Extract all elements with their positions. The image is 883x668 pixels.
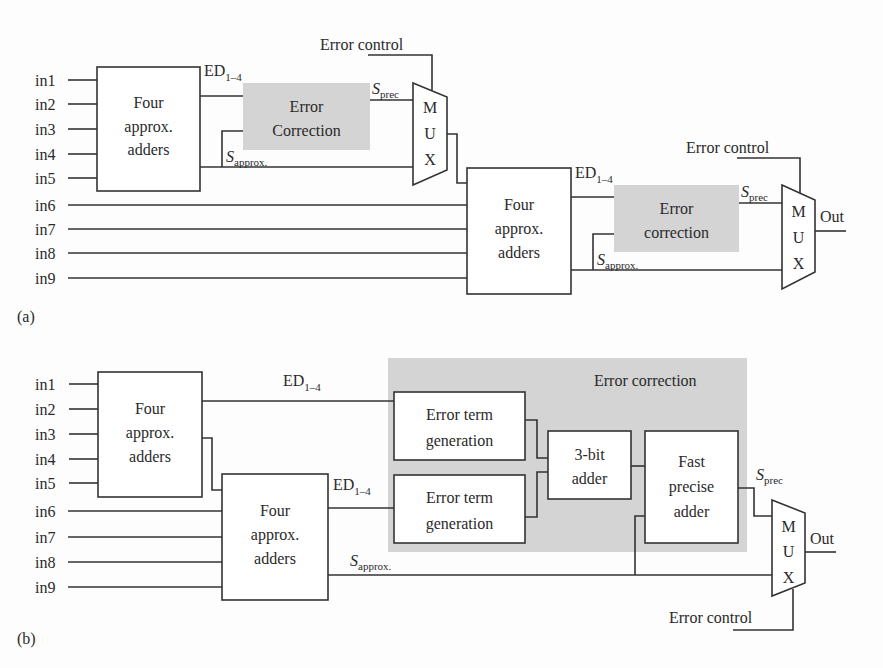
block-label-line1: Error term [426,406,494,423]
input-label-in2: in2 [35,96,55,113]
diagram-a-error-correction-1: Error Correction [243,83,370,150]
s-approx-label: Sapprox. [226,148,268,168]
mux-letter-x: X [424,151,436,168]
block-label-line3: adder [674,503,710,520]
input-label-in1: in1 [35,376,55,393]
mux-letter-u: U [783,543,795,560]
fast-precise-adder: Fast precise adder [645,431,738,543]
adder-label-line3: adders [254,550,296,567]
adder-label-line2: approx. [126,424,174,442]
ed-label: ED1–4 [333,476,371,497]
ed-label: ED1–4 [283,372,321,393]
s-approx-label: Sapprox. [597,251,639,271]
input-label-in7: in7 [35,221,55,238]
input-label-in8: in8 [35,245,55,262]
adder-label-line1: Four [504,196,535,213]
input-label-in5: in5 [35,475,55,492]
error-correction-title: Error correction [594,372,697,389]
mux-letter-m: M [781,518,795,535]
adder-label-line3: adders [498,244,540,261]
input-label-in9: in9 [35,579,55,596]
diagram-a: in1 in2 in3 in4 in5 in6 in7 in8 in9 Four [17,36,846,326]
mux-letter-u: U [424,125,436,142]
block-label-line1: Error term [426,489,494,506]
error-control-label: Error control [686,139,770,156]
s-prec-label: Sprec [741,183,768,203]
ed-label: ED1–4 [575,164,613,185]
adder-label-line2: approx. [124,118,172,136]
mux-letter-m: M [791,203,805,220]
error-correction-label-line1: Error [660,200,694,217]
adder-label-line1: Four [133,94,164,111]
diagram-b-approx-adder-2: Four approx. adders [222,474,328,600]
adder-label-line2: approx. [251,526,299,544]
adder-label-line1: Four [135,400,166,417]
mux-letter-x: X [783,569,795,586]
input-label-in8: in8 [35,554,55,571]
s-prec-label: Sprec [372,80,399,100]
input-label-in3: in3 [35,121,55,138]
adder-label-line3: adders [128,141,170,158]
input-label-in6: in6 [35,503,55,520]
error-correction-label-line1: Error [290,98,324,115]
output-label: Out [820,208,845,225]
input-label-in9: in9 [35,270,55,287]
block-label-line2: adder [572,470,608,487]
diagram-b-mux: M U X [772,500,805,596]
block-label-line1: Fast [678,453,705,470]
ed-label: ED1–4 [204,62,242,83]
input-label-in5: in5 [35,170,55,187]
error-control-label: Error control [669,609,753,626]
error-control-label: Error control [320,36,404,53]
diagram-b: Error correction in1 in2 in3 in4 in5 in6… [17,358,836,648]
adder-label-line2: approx. [495,220,543,238]
subfigure-label-b: (b) [17,630,36,648]
diagram-canvas: in1 in2 in3 in4 in5 in6 in7 in8 in9 Four [0,0,883,668]
error-term-generation-2: Error term generation [394,475,525,543]
s-prec-label: Sprec [756,466,783,486]
approximate-adder-block-diagrams: in1 in2 in3 in4 in5 in6 in7 in8 in9 Four [0,0,883,668]
diagram-a-approx-adder-1: Four approx. adders [97,67,200,191]
diagram-a-mux-2: M U X [782,185,815,289]
adder-label-line3: adders [129,448,171,465]
diagram-a-mux-1: M U X [413,83,447,185]
input-label-in3: in3 [35,426,55,443]
input-label-in4: in4 [35,146,55,163]
mux-letter-m: M [423,99,437,116]
adder-label-line1: Four [260,502,291,519]
input-label-in4: in4 [35,451,55,468]
diagram-a-inputs: in1 in2 in3 in4 in5 in6 in7 in8 in9 [35,72,55,287]
block-label-line2: generation [426,515,494,533]
input-label-in2: in2 [35,401,55,418]
diagram-a-error-correction-2: Error correction [614,185,739,252]
block-label-line2: generation [426,432,494,450]
subfigure-label-a: (a) [17,308,35,326]
input-label-in1: in1 [35,72,55,89]
error-correction-label-line2: correction [644,224,709,241]
s-approx-label: Sapprox. [350,552,392,572]
mux-letter-u: U [793,229,805,246]
block-label-line1: 3-bit [574,446,605,463]
input-label-in6: in6 [35,197,55,214]
input-label-in7: in7 [35,529,55,546]
mux-letter-x: X [793,255,805,272]
output-label: Out [810,530,835,547]
diagram-b-inputs: in1 in2 in3 in4 in5 in6 in7 in8 in9 [35,376,55,596]
diagram-b-approx-adder-1: Four approx. adders [98,372,202,497]
error-term-generation-1: Error term generation [394,392,525,460]
three-bit-adder: 3-bit adder [548,431,631,499]
block-label-line2: precise [669,478,714,496]
error-correction-label-line2: Correction [272,122,340,139]
diagram-a-approx-adder-2: Four approx. adders [467,168,571,294]
